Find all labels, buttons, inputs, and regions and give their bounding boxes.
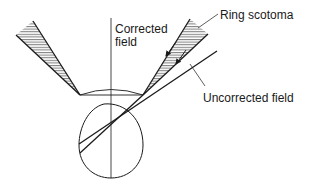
uncorrected-field-leader [190,64,205,86]
corrected-field-label-line1: Corrected [115,22,168,36]
ring-scotoma-label: Ring scotoma [220,8,294,22]
left-scotoma-wedge [16,21,80,95]
ring-scotoma-diagram: Corrected field Ring scotoma Uncorrected… [0,0,320,192]
spectacle-lens [80,90,143,96]
ring-scotoma-leader [198,14,218,28]
uncorrected-field-label: Uncorrected field [203,91,294,105]
corrected-field-label-line2: field [115,35,137,49]
ray-lines [79,51,217,153]
